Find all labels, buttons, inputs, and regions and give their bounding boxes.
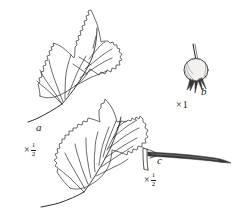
figure-scale-c: × 1 2 xyxy=(144,172,156,188)
botanical-plate: a × 1 2 b × 1 c × 1 2 xyxy=(0,0,245,212)
thorn-base xyxy=(143,148,156,170)
scale-multiplier-sign-b: × xyxy=(176,100,182,110)
scale-value-b: 1 xyxy=(183,100,188,110)
lower-leaf-vein xyxy=(113,120,137,138)
upper-leaf-vein xyxy=(40,70,62,104)
lower-leaf-vein xyxy=(99,127,109,165)
lower-leaf-outline xyxy=(54,99,148,189)
lower-leaf-petiole xyxy=(41,192,84,207)
lower-leaf-vein xyxy=(86,138,91,178)
lower-leaf-vein xyxy=(105,138,137,158)
upper-leaf-vein xyxy=(75,71,107,86)
plate-artwork xyxy=(0,0,245,212)
upper-leaf-vein xyxy=(49,60,63,102)
upper-leaf-vein xyxy=(89,42,105,59)
lower-leaf-midrib xyxy=(84,117,121,192)
figure-scale-b: × 1 xyxy=(176,100,188,110)
fruit-body xyxy=(184,59,208,82)
lower-leaf-vein xyxy=(94,132,98,172)
scale-multiplier-sign-a: × xyxy=(24,145,30,155)
scale-fraction-c: 1 2 xyxy=(151,172,157,188)
scale-denominator-a: 2 xyxy=(31,151,37,158)
upper-leaf-midrib xyxy=(62,28,97,104)
scale-fraction-a: 1 2 xyxy=(31,142,37,158)
figure-scale-a: × 1 2 xyxy=(24,142,36,158)
lower-leaf-vein xyxy=(117,121,126,128)
scale-numerator-a: 1 xyxy=(31,142,37,149)
figure-label-b: b xyxy=(201,86,207,97)
upper-leaf-vein xyxy=(37,81,62,104)
scale-denominator-c: 2 xyxy=(151,181,157,188)
upper-leaf-petiole xyxy=(28,104,62,122)
scale-numerator-c: 1 xyxy=(151,172,157,179)
upper-leaf-outline xyxy=(38,10,122,98)
lower-leaf-vein xyxy=(96,159,128,176)
figure-a-upper-leaf xyxy=(28,10,122,122)
scale-multiplier-sign-c: × xyxy=(144,175,150,185)
lower-leaf-vein xyxy=(65,153,85,189)
figure-label-a: a xyxy=(36,122,42,133)
upper-leaf-vein xyxy=(80,58,112,78)
figure-label-c: c xyxy=(157,155,162,166)
figure-a-lower-leaf xyxy=(41,99,148,207)
upper-leaf-vein xyxy=(65,55,71,99)
